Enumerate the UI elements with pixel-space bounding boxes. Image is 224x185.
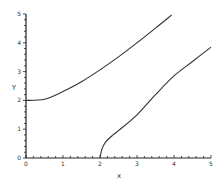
upper-branch-curve (26, 15, 172, 101)
hyperbola-chart: 012345012345 x Y (0, 0, 224, 185)
x-tick-label: 2 (98, 160, 102, 167)
x-tick-label: 5 (209, 160, 213, 167)
y-tick-label: 2 (17, 96, 21, 103)
y-tick-label: 3 (17, 68, 21, 75)
x-tick-label: 4 (172, 160, 176, 167)
x-axis-label: x (117, 172, 121, 180)
axes: 012345012345 (17, 10, 213, 167)
x-tick-label: 3 (135, 160, 139, 167)
y-tick-label: 1 (17, 125, 21, 132)
y-axis-label: Y (11, 84, 17, 92)
x-tick-label: 1 (61, 160, 65, 167)
plot-series (26, 15, 211, 158)
lower-branch-curve (100, 47, 211, 158)
y-tick-label: 5 (17, 10, 21, 17)
y-tick-label: 4 (17, 39, 21, 46)
y-tick-label: 0 (17, 154, 21, 161)
x-tick-label: 0 (24, 160, 28, 167)
